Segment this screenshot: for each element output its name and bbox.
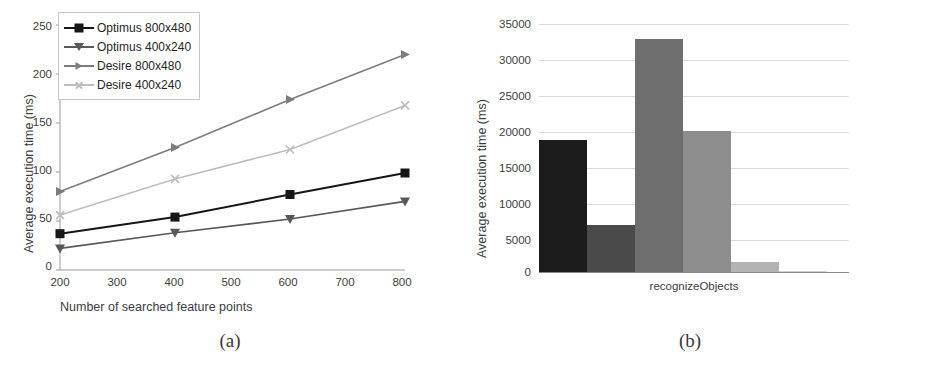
y-tick-label: 0	[483, 266, 531, 278]
data-point-marker[interactable]	[286, 95, 295, 104]
chart-panel-a: Average execution time (ms) 250 200 150 …	[0, 0, 460, 378]
legend-label: Desire 400x240	[97, 79, 181, 91]
y-tick-label: 30000	[483, 54, 531, 66]
legend-item[interactable]: Desire 800x480	[64, 56, 191, 75]
legend-label: Desire 800x480	[97, 60, 181, 72]
bar-desire-800x480[interactable]	[635, 39, 683, 272]
legend-label: Optimus 800x480	[97, 22, 191, 34]
legend-item[interactable]: Optimus 400x240	[64, 37, 191, 56]
y-tick-label: 5000	[483, 234, 531, 246]
data-point-marker[interactable]	[401, 169, 410, 178]
legend-a[interactable]: Optimus 800x480 Optimus 400x240 Desire 8…	[58, 12, 200, 100]
data-point-marker[interactable]	[401, 101, 409, 109]
y-tick-label: 25000	[483, 90, 531, 102]
bar-plot-b	[539, 24, 849, 272]
caption-a: (a)	[0, 330, 460, 352]
y-tick-label: 20000	[483, 126, 531, 138]
y-tick-label: 35000	[483, 18, 531, 30]
data-point-marker[interactable]	[56, 229, 65, 238]
legend-key-line-marker	[64, 40, 94, 54]
data-point-marker[interactable]	[171, 213, 180, 222]
bar-laptop-400x240[interactable]	[779, 271, 827, 272]
data-point-marker[interactable]	[55, 244, 65, 253]
legend-label: Optimus 400x240	[97, 41, 191, 53]
category-label: recognizeObjects	[539, 280, 849, 292]
bar-laptop-800x480[interactable]	[731, 262, 779, 272]
y-tick-label: 10000	[483, 198, 531, 210]
series-line	[60, 173, 405, 234]
data-point-marker[interactable]	[171, 143, 180, 152]
figure-container: Average execution time (ms) 250 200 150 …	[0, 0, 925, 378]
legend-item[interactable]: Desire 400x240	[64, 75, 191, 94]
bar-optimus-800x480[interactable]	[539, 140, 587, 273]
legend-key-line-marker	[64, 78, 94, 92]
data-point-marker[interactable]	[401, 50, 410, 59]
y-tick-label: 15000	[483, 162, 531, 174]
bar-desire-400x240[interactable]	[683, 131, 731, 272]
x-axis-line	[539, 272, 849, 273]
chart-panel-b: Average execution time (ms) 35000 30000 …	[455, 0, 925, 378]
caption-b: (b)	[455, 330, 925, 352]
legend-item[interactable]: Optimus 800x480	[64, 18, 191, 37]
bar-optimus-400x240[interactable]	[587, 225, 635, 272]
data-point-marker[interactable]	[286, 190, 295, 199]
series-line	[60, 201, 405, 248]
series-line	[60, 105, 405, 215]
legend-key-line-marker	[64, 21, 94, 35]
legend-key-line-marker	[64, 59, 94, 73]
